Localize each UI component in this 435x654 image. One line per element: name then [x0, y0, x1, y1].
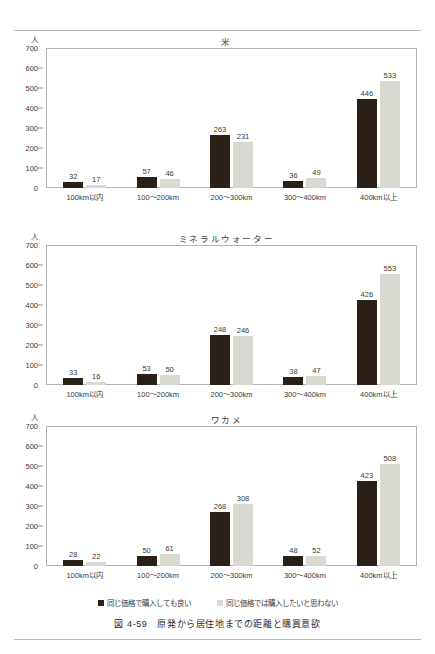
bar: 46	[160, 48, 180, 188]
bar-value-label: 47	[312, 366, 320, 375]
bar-group: 423508	[342, 426, 415, 566]
bar-fill	[160, 179, 180, 188]
bar-value-label: 423	[361, 471, 374, 480]
bar: 268	[210, 426, 230, 566]
bar-fill	[357, 300, 377, 385]
chart-block-2: 人ミネラルウォーター700600500400300200100033165350…	[0, 233, 435, 399]
bar-value-label: 248	[214, 325, 227, 334]
bar-value-label: 50	[165, 365, 173, 374]
legend-label: 同じ価格で購入しても良い	[107, 597, 191, 608]
bar-group: 426553	[342, 245, 415, 385]
figure-caption: 図 4-59原発から居住地までの距離と購買意欲	[0, 617, 435, 630]
y-axis-tick-label: 600	[25, 442, 38, 451]
bar-value-label: 446	[361, 89, 374, 98]
chart-title: ワカメ	[18, 414, 435, 426]
bar: 426	[357, 245, 377, 385]
y-axis-tick-label: 700	[25, 44, 38, 53]
bar-fill	[306, 376, 326, 385]
x-axis-tick-label: 100km以内	[48, 388, 121, 399]
bar-value-label: 49	[312, 168, 320, 177]
y-axis: 7006005004003002001000	[8, 245, 46, 385]
bar-group: 446533	[342, 48, 415, 188]
bar-group: 3649	[268, 48, 341, 188]
y-axis: 7006005004003002001000	[8, 48, 46, 188]
bar: 50	[137, 426, 157, 566]
bar-fill	[210, 135, 230, 188]
bar: 17	[86, 48, 106, 188]
bar-group: 3217	[48, 48, 121, 188]
bar-groups: 282250612683084852423508	[46, 426, 417, 566]
bar-fill	[380, 274, 400, 385]
bar-value-label: 231	[237, 132, 250, 141]
bar-group: 3847	[268, 245, 341, 385]
bar: 57	[137, 48, 157, 188]
bar: 38	[283, 245, 303, 385]
chart-legend: 同じ価格で購入しても良い同じ価格では購入したいと思わない	[0, 597, 435, 608]
plot-area: 7006005004003002001000321757462632313649…	[46, 48, 417, 188]
bar-value-label: 426	[361, 290, 374, 299]
bar-value-label: 22	[92, 552, 100, 561]
bar-fill	[357, 99, 377, 188]
bar-fill	[233, 142, 253, 188]
x-axis-labels: 100km以内100〜200km200〜300km300〜400km400km以…	[46, 566, 417, 580]
y-axis-tick-label: 100	[25, 361, 38, 370]
chart-title: 米	[18, 36, 435, 48]
bar: 32	[63, 48, 83, 188]
bar-value-label: 52	[312, 546, 320, 555]
bar-fill	[380, 81, 400, 188]
y-axis-tick-mark	[38, 365, 43, 366]
bar-value-label: 33	[69, 368, 77, 377]
bar-value-label: 533	[384, 71, 397, 80]
legend-item-same-price-willing: 同じ価格で購入しても良い	[98, 597, 191, 608]
bar: 248	[210, 245, 230, 385]
bar-value-label: 61	[165, 544, 173, 553]
x-axis-tick-label: 100〜200km	[121, 388, 194, 399]
bar-fill	[306, 178, 326, 188]
chart-title: ミネラルウォーター	[18, 233, 435, 245]
y-axis-tick-label: 400	[25, 104, 38, 113]
x-axis-tick-label: 200〜300km	[195, 388, 268, 399]
y-axis-tick-label: 100	[25, 542, 38, 551]
bar: 61	[160, 426, 180, 566]
y-axis-tick-mark	[38, 506, 43, 507]
x-axis-tick-label: 300〜400km	[268, 191, 341, 202]
bar-value-label: 16	[92, 372, 100, 381]
bar-value-label: 50	[142, 546, 150, 555]
x-axis-tick-label: 100〜200km	[121, 191, 194, 202]
bar-value-label: 17	[92, 175, 100, 184]
bar: 263	[210, 48, 230, 188]
bar: 22	[86, 426, 106, 566]
y-axis-tick-mark	[38, 265, 43, 266]
bar-group: 2822	[48, 426, 121, 566]
bar-fill	[380, 464, 400, 566]
bar-value-label: 46	[165, 169, 173, 178]
x-axis-tick-label: 300〜400km	[268, 388, 341, 399]
y-axis-tick-label: 700	[25, 422, 38, 431]
x-axis-tick-label: 200〜300km	[195, 191, 268, 202]
bar-group: 248246	[195, 245, 268, 385]
bar: 553	[380, 245, 400, 385]
chart-block-1: 人米70060050040030020010003217574626323136…	[0, 36, 435, 202]
bar-fill	[210, 512, 230, 566]
bar-fill	[210, 335, 230, 385]
figure-page: 人米70060050040030020010003217574626323136…	[0, 0, 435, 654]
bar-value-label: 48	[289, 546, 297, 555]
legend-swatch-icon	[217, 600, 223, 606]
bar-fill	[233, 336, 253, 385]
bar: 231	[233, 48, 253, 188]
bar-fill	[160, 375, 180, 385]
bar: 48	[283, 426, 303, 566]
figure-caption-text: 原発から居住地までの距離と購買意欲	[157, 619, 320, 629]
bar: 50	[160, 245, 180, 385]
plot-area: 7006005004003002001000282250612683084852…	[46, 426, 417, 566]
x-axis-tick-label: 200〜300km	[195, 569, 268, 580]
y-axis-tick-label: 200	[25, 341, 38, 350]
y-axis-tick-mark	[38, 305, 43, 306]
bar-group: 268308	[195, 426, 268, 566]
y-axis: 7006005004003002001000	[8, 426, 46, 566]
bar-groups: 331653502482463847426553	[46, 245, 417, 385]
bar: 308	[233, 426, 253, 566]
y-axis-tick-mark	[38, 526, 43, 527]
legend-item-same-price-unwilling: 同じ価格では購入したいと思わない	[217, 597, 338, 608]
bar-fill	[357, 481, 377, 566]
